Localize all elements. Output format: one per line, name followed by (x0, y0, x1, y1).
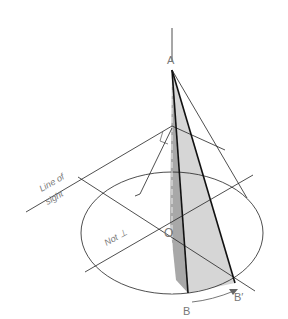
label-a: A (167, 55, 174, 66)
right-angle-symbol (160, 131, 168, 144)
diagram-drawing (0, 0, 288, 319)
label-b: B (183, 306, 190, 317)
label-b-prime: B′ (234, 292, 243, 303)
label-o: O (164, 227, 173, 239)
leader (135, 194, 140, 196)
diagram-canvas: A O B B′ Line of sight Not ⊥ (0, 0, 288, 319)
not-perp-line (140, 128, 172, 194)
rotation-arrow (192, 291, 234, 302)
